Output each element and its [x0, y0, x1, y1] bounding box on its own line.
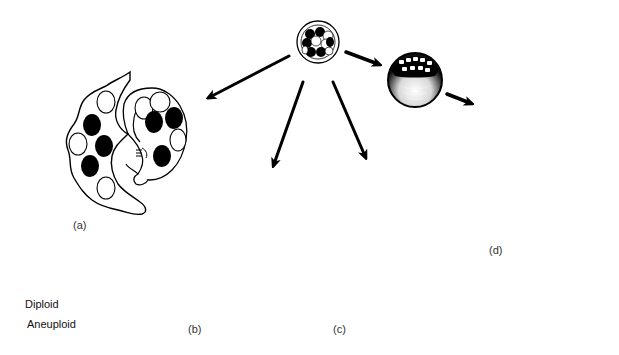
- mosaicism-diagram: [0, 0, 619, 355]
- blastocyst: [388, 53, 442, 107]
- arrow-to-blastocyst: [346, 52, 378, 64]
- panel-a: [66, 72, 186, 215]
- panel-label-b: (b): [188, 323, 201, 335]
- panel-label-d: (d): [489, 244, 502, 256]
- arrow-to-b: [274, 82, 303, 164]
- panel-label-c: (c): [333, 323, 346, 335]
- morula: [297, 21, 339, 63]
- legend-diploid-label: Diploid: [25, 298, 59, 310]
- arrow-to-c: [333, 82, 365, 156]
- panel-label-a: (a): [73, 219, 86, 231]
- arrow-to-a: [210, 56, 289, 97]
- legend-aneuploid-label: Aneuploid: [27, 318, 76, 330]
- arrow-to-d: [447, 94, 470, 103]
